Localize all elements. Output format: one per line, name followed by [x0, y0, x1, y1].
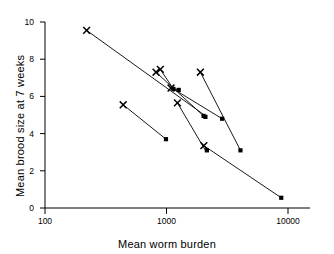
y-tick-label: 0: [16, 203, 34, 213]
cross-marker: [174, 100, 181, 107]
y-tick-label: 2: [16, 166, 34, 176]
axis-lines: [45, 22, 310, 208]
connector-line: [173, 89, 222, 119]
cross-marker: [120, 101, 127, 108]
y-tick-label: 6: [16, 91, 34, 101]
y-tick-label: 8: [16, 54, 34, 64]
connector-line: [200, 72, 240, 150]
connector-lines: [87, 30, 282, 197]
square-marker: [203, 115, 207, 119]
square-marker: [238, 148, 242, 152]
x-tick-label: 100: [21, 216, 69, 226]
square-marker: [164, 137, 168, 141]
connector-line: [204, 146, 281, 198]
connector-line: [123, 105, 166, 139]
square-marker: [279, 196, 283, 200]
x-tick-label: 10000: [264, 216, 312, 226]
x-axis-label: Mean worm burden: [0, 238, 334, 250]
square-marker: [171, 87, 175, 91]
square-marker: [220, 117, 224, 121]
x-axis-ticks: [45, 208, 288, 214]
cross-marker: [197, 69, 204, 76]
square-marker: [205, 148, 209, 152]
square-marker: [177, 88, 181, 92]
cross-marker: [83, 27, 90, 34]
chart-figure: Mean brood size at 7 weeks Mean worm bur…: [0, 0, 334, 254]
connector-line: [156, 72, 204, 116]
x-tick-label: 1000: [143, 216, 191, 226]
y-tick-label: 10: [16, 17, 34, 27]
y-tick-label: 4: [16, 129, 34, 139]
y-axis-ticks: [40, 22, 45, 208]
connector-line: [87, 30, 207, 116]
